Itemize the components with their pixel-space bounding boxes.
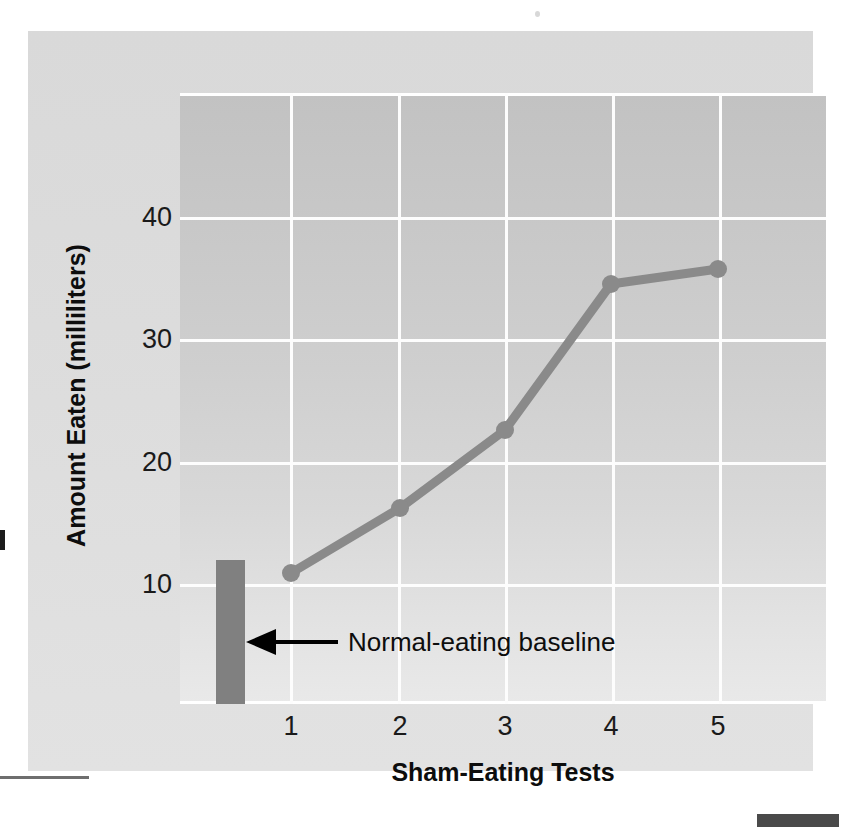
x-tick-label-5: 5	[698, 713, 738, 740]
baseline-annotation-arrow	[180, 93, 826, 704]
page-footer-bar-artifact	[757, 814, 839, 827]
y-tick-label-20: 20	[118, 449, 172, 476]
x-axis-title: Sham-Eating Tests	[180, 758, 826, 787]
cropped-glyph-artifact	[0, 530, 5, 550]
y-tick-label-30: 30	[118, 326, 172, 353]
x-tick-label-1: 1	[271, 713, 311, 740]
chart-panel: Amount Eaten (milliliters) 40 30 20 10	[28, 31, 813, 771]
x-axis-tick-labels: 1 2 3 4 5	[180, 713, 826, 753]
figure-container: Amount Eaten (milliliters) 40 30 20 10	[0, 0, 853, 827]
baseline-annotation-label: Normal-eating baseline	[348, 629, 615, 655]
page-rule-artifact	[0, 776, 89, 779]
arrow-head	[246, 629, 276, 655]
x-tick-label-2: 2	[380, 713, 420, 740]
y-axis-title: Amount Eaten (milliliters)	[62, 186, 91, 606]
y-axis-tick-labels: 40 30 20 10	[114, 93, 172, 704]
y-tick-label-40: 40	[118, 204, 172, 231]
x-tick-label-4: 4	[591, 713, 631, 740]
page-speck-artifact	[535, 11, 540, 17]
x-tick-label-3: 3	[485, 713, 525, 740]
y-tick-label-10: 10	[118, 571, 172, 598]
plot-area: Normal-eating baseline	[180, 93, 826, 704]
